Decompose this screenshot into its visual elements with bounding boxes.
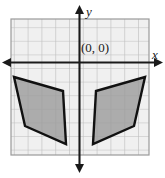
y-axis-arrow-up (75, 5, 84, 14)
origin-label: (0, 0) (81, 41, 109, 54)
x-axis-arrow-left (2, 58, 11, 67)
x-axis-label: x (152, 48, 158, 61)
graph-canvas (0, 0, 165, 178)
y-axis-label: y (86, 5, 92, 18)
coordinate-plane-figure: (0, 0) y x (0, 0, 165, 178)
y-axis-arrow-down (75, 164, 84, 173)
